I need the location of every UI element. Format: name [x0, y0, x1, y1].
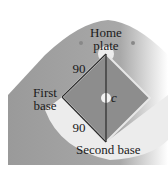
- marker-left: [79, 41, 83, 45]
- side-bottom-label: 90: [72, 121, 86, 134]
- first-base-label-line2: base: [32, 99, 58, 112]
- side-top-label: 90: [72, 62, 86, 75]
- first-base-label: First base: [32, 86, 58, 112]
- diagonal-label: c: [110, 91, 118, 104]
- marker-right: [131, 41, 135, 45]
- home-plate-label-line2: plate: [86, 39, 126, 52]
- home-plate-label: Home plate: [86, 26, 126, 52]
- second-base-label: Second base: [76, 143, 138, 156]
